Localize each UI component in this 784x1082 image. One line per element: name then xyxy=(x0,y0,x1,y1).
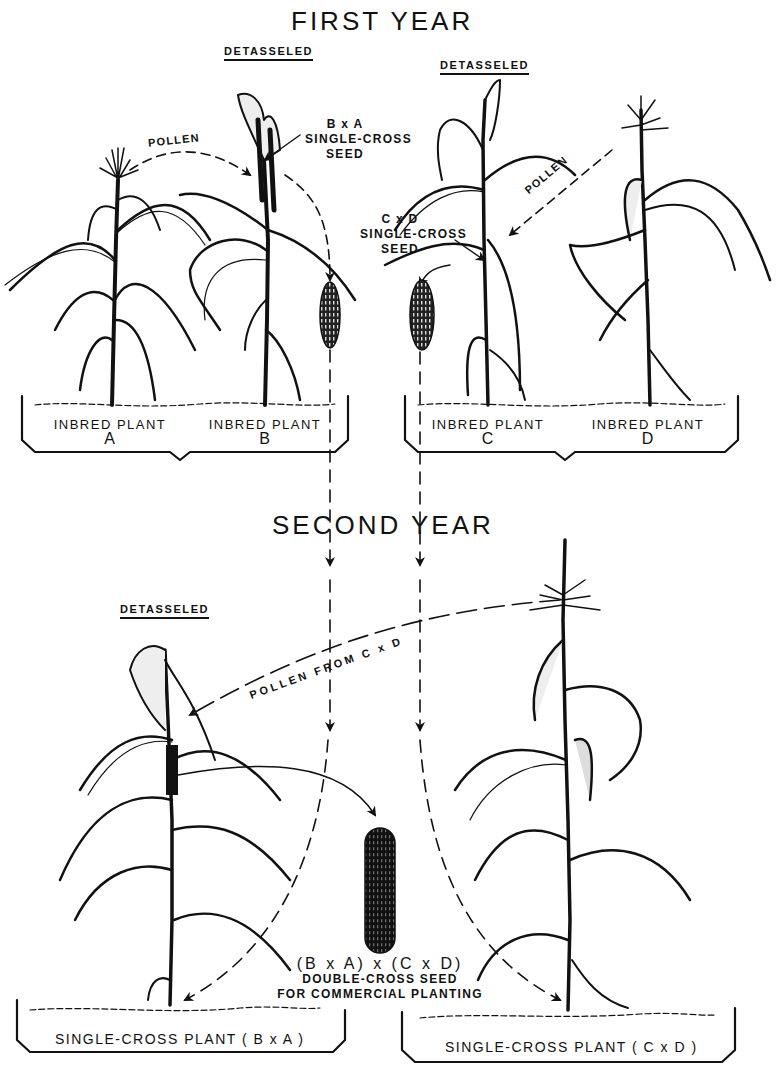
double-cross-line1: DOUBLE-CROSS SEED xyxy=(275,972,485,987)
double-cross-line2: FOR COMMERCIAL PLANTING xyxy=(275,987,485,1002)
double-cross-formula: (B x A) x (C x D) xyxy=(275,956,485,972)
detasseled-label-bxa: DETASSELED xyxy=(120,604,209,619)
diagram-artwork xyxy=(0,0,784,1082)
detasseled-label-c: DETASSELED xyxy=(440,60,529,75)
inbred-plant-d-drawing xyxy=(570,96,770,405)
inbred-plant-c-label: INBRED PLANT C xyxy=(428,418,548,447)
seed-line1-bxa: SINGLE-CROSS xyxy=(305,132,385,147)
arrow-bxa-ear-to-double-cross xyxy=(178,766,375,815)
ear-bxa-icon xyxy=(320,282,340,348)
pollen-arrow-cxd-to-bxa xyxy=(190,600,560,715)
seed-line1-cxd: SINGLE-CROSS xyxy=(360,227,440,242)
double-cross-label: (B x A) x (C x D) DOUBLE-CROSS SEED FOR … xyxy=(275,956,485,1002)
single-cross-plant-cxd-label: SINGLE-CROSS PLANT ( C x D ) xyxy=(445,1040,698,1054)
title-first-year: FIRST YEAR xyxy=(291,8,473,34)
inbred-plant-b-label: INBRED PLANT B xyxy=(205,418,325,447)
seed-label-bxa: B x A SINGLE-CROSS SEED xyxy=(305,117,385,162)
single-cross-plant-cxd-drawing xyxy=(455,540,690,1010)
seed-cross-cxd: C x D xyxy=(360,212,440,227)
seed-label-cxd: C x D SINGLE-CROSS SEED xyxy=(360,212,440,257)
pollen-arrow-a-to-b xyxy=(130,152,250,175)
inbred-plant-c-letter: C xyxy=(428,431,548,447)
seed-arrow-b-to-ear xyxy=(285,175,330,280)
seed-cross-bxa: B x A xyxy=(305,117,385,132)
seed-line2-cxd: SEED xyxy=(360,242,440,257)
inbred-plant-a-drawing xyxy=(5,148,210,405)
inbred-plant-d-letter: D xyxy=(588,431,708,447)
detasseled-label-b: DETASSELED xyxy=(224,46,313,61)
title-second-year: SECOND YEAR xyxy=(272,512,494,538)
ear-cxd-icon xyxy=(410,280,434,350)
single-cross-plant-bxa-label: SINGLE-CROSS PLANT ( B x A ) xyxy=(55,1032,304,1046)
ear-double-cross-icon xyxy=(365,828,395,953)
inbred-plant-a-letter: A xyxy=(50,431,170,447)
inbred-plant-a-label: INBRED PLANT A xyxy=(50,418,170,447)
hybrid-corn-diagram: FIRST YEAR DETASSELED DETASSELED POLLEN … xyxy=(0,0,784,1082)
single-cross-plant-bxa-drawing xyxy=(60,646,290,1005)
inbred-plant-b-letter: B xyxy=(205,431,325,447)
inbred-plant-d-label: INBRED PLANT D xyxy=(588,418,708,447)
seed-line2-bxa: SEED xyxy=(305,147,385,162)
